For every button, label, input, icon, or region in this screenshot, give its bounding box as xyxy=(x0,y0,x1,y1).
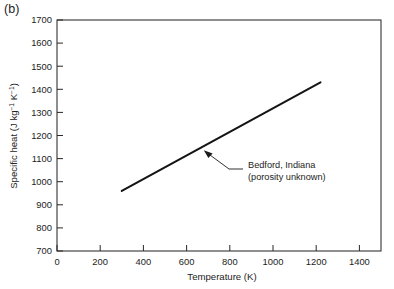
y-tick-label: 1200 xyxy=(31,130,52,141)
x-tick-label: 200 xyxy=(92,256,108,267)
y-tick-label: 700 xyxy=(36,245,52,256)
y-tick-label: 1600 xyxy=(31,37,52,48)
annotation-line-1: Bedford, Indiana xyxy=(248,160,316,170)
y-tick-label: 1000 xyxy=(31,176,52,187)
y-tick-label: 1300 xyxy=(31,107,52,118)
x-tick-label: 1000 xyxy=(263,256,284,267)
x-tick-label: 1200 xyxy=(306,256,327,267)
y-tick-label: 1700 xyxy=(31,14,52,25)
x-tick-label: 0 xyxy=(54,256,59,267)
plot-frame xyxy=(57,20,381,251)
y-axis-title-prefix: Specific heat (J kg xyxy=(8,110,19,188)
annotation-line-2: (porosity unknown) xyxy=(248,172,326,182)
annotation-bedford-indiana: Bedford, Indiana (porosity unknown) xyxy=(248,160,326,182)
x-tick-label: 600 xyxy=(179,256,195,267)
annotation-arrowhead xyxy=(204,150,213,158)
x-tick-label: 800 xyxy=(222,256,238,267)
specific-heat-vs-temperature-chart: 0 200 400 600 800 1000 1200 1400 Tempera… xyxy=(0,0,394,289)
x-axis-ticks xyxy=(57,245,359,251)
x-axis-tick-labels: 0 200 400 600 800 1000 1200 1400 xyxy=(54,256,369,267)
annotation-leader-line xyxy=(204,150,243,169)
y-tick-label: 1100 xyxy=(32,153,52,164)
x-axis-title: Temperature (K) xyxy=(187,271,256,282)
y-axis-title-suffix: ) xyxy=(8,83,19,86)
y-axis-ticks xyxy=(57,20,63,251)
y-tick-label: 900 xyxy=(36,199,52,210)
figure-panel-b: (b) 0 200 400 600 800 1000 1200 1400 Te xyxy=(0,0,394,289)
y-axis-tick-labels: 700 800 900 1000 1100 1200 1300 1400 150… xyxy=(31,14,52,256)
y-tick-label: 800 xyxy=(36,222,52,233)
x-tick-label: 1400 xyxy=(349,256,370,267)
y-axis-title: Specific heat (J kg−1 K−1) xyxy=(8,83,19,189)
y-tick-label: 1500 xyxy=(31,61,52,72)
x-tick-label: 400 xyxy=(136,256,152,267)
y-tick-label: 1400 xyxy=(31,84,52,95)
svg-text:Specific heat (J kg−1 K−1): Specific heat (J kg−1 K−1) xyxy=(8,83,19,189)
